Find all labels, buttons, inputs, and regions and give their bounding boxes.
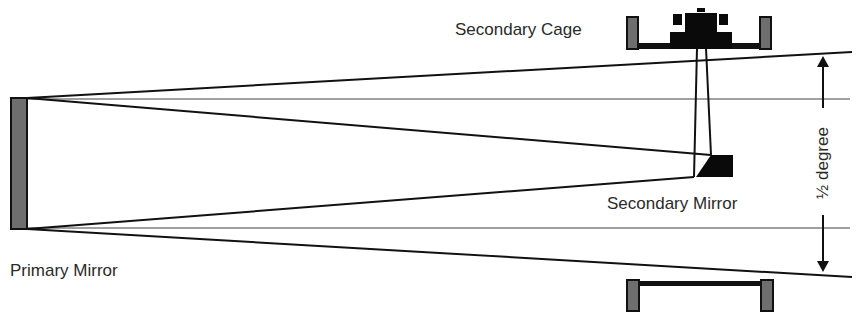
outer-ray-bottom: [27, 229, 852, 277]
outer-ray-top: [27, 52, 852, 98]
secondary-cage-bottom: [627, 280, 773, 311]
converging-ray-top: [27, 98, 711, 155]
primary-mirror: [11, 98, 27, 229]
telescope-diagram: [0, 0, 859, 328]
field-angle-label: ½ degree: [813, 113, 833, 213]
reflected-ray-left: [694, 48, 697, 177]
reflected-ray-right: [706, 48, 711, 155]
secondary-cage-label: Secondary Cage: [455, 20, 582, 40]
converging-ray-bottom: [27, 177, 694, 229]
primary-mirror-label: Primary Mirror: [10, 261, 118, 281]
secondary-mirror-label: Secondary Mirror: [607, 194, 737, 214]
secondary-cage-top: [627, 8, 771, 49]
secondary-mirror: [696, 155, 733, 177]
